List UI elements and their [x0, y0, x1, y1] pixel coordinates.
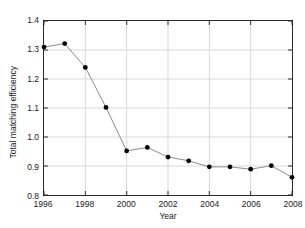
- data-point-marker: 2006: 0.889: [248, 167, 253, 172]
- data-point-marker: 1998: 1.24: [83, 65, 88, 70]
- data-point-marker: 1999: 1.102: [104, 105, 109, 110]
- x-axis-title: Year: [43, 212, 293, 221]
- x-axis-tick-label: 2008: [284, 200, 303, 209]
- data-point-marker: 2008: 0.861: [290, 175, 295, 180]
- chart-figure: 0.80.91.01.11.21.31.4 1996: 1.311997: 1.…: [0, 0, 305, 228]
- data-series-layer: 1996: 1.311997: 1.3221998: 1.241999: 1.1…: [44, 21, 292, 195]
- data-point-marker: 1997: 1.322: [62, 41, 67, 46]
- y-axis-tick-label: 1.3: [27, 45, 39, 54]
- y-axis-tick-labels: 0.80.91.01.11.21.31.4: [0, 20, 39, 196]
- data-point-marker: 2005: 0.897: [228, 164, 233, 169]
- x-axis-tick-label: 2006: [242, 200, 261, 209]
- x-axis-tick-label: 2000: [117, 200, 136, 209]
- x-axis-tick-label: 1998: [75, 200, 94, 209]
- y-axis-tick-label: 1.1: [27, 104, 39, 113]
- data-point-marker: 2007: 0.901: [269, 163, 274, 168]
- y-axis-tick-label: 1.4: [27, 16, 39, 25]
- y-axis-tick-label: 1.0: [27, 133, 39, 142]
- x-axis-tick-label: 2004: [200, 200, 219, 209]
- data-point-marker: 2003: 0.918: [186, 158, 191, 163]
- data-point-marker: 2001: 0.964: [145, 145, 150, 150]
- x-axis-tick-label: 1996: [34, 200, 53, 209]
- y-axis-tick-label: 1.2: [27, 74, 39, 83]
- y-axis-tick-label: 0.9: [27, 162, 39, 171]
- data-point-marker: 2000: 0.952: [124, 149, 129, 154]
- data-point-marker: 1996: 1.31: [42, 45, 47, 50]
- data-point-marker: 2002: 0.931: [166, 155, 171, 160]
- y-axis-title: Total matching efficiency: [9, 47, 18, 177]
- x-axis-tick-label: 2002: [159, 200, 178, 209]
- plot-area: 1996: 1.311997: 1.3221998: 1.241999: 1.1…: [43, 20, 293, 196]
- data-point-marker: 2004: 0.897: [207, 164, 212, 169]
